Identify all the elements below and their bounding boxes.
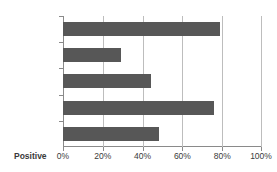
bars-layer: Price Customer Service Restaurant Cleanl… xyxy=(63,16,262,147)
x-axis-label: 40% xyxy=(134,151,151,162)
bar-customer-service xyxy=(63,48,121,62)
y-tick-customer-service xyxy=(59,42,63,43)
x-axis-label: 0% xyxy=(57,151,69,162)
bar-chart: Price Customer Service Restaurant Cleanl… xyxy=(0,0,277,172)
y-tick-food-quality xyxy=(59,95,63,96)
x-axis-label: 60% xyxy=(174,151,191,162)
y-tick-delivery xyxy=(59,121,63,122)
y-tick-price xyxy=(59,16,63,17)
x-axis-label: 20% xyxy=(94,151,111,162)
bar-food-quality xyxy=(63,101,214,115)
plot-area: Price Customer Service Restaurant Cleanl… xyxy=(63,16,262,147)
x-axis-labels: 0% 20% 40% 60% 80% 100% xyxy=(0,151,277,165)
chart-title xyxy=(0,0,277,3)
x-axis-label: 100% xyxy=(250,151,272,162)
bar-price xyxy=(63,22,220,36)
bar-restaurant-cleanliness xyxy=(63,74,151,88)
bar-delivery xyxy=(63,127,159,141)
y-tick-restaurant-cleanliness xyxy=(59,68,63,69)
x-axis-label: 80% xyxy=(214,151,231,162)
